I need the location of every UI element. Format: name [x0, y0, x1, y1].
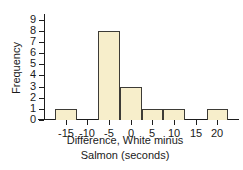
x-axis-tick [87, 120, 88, 125]
x-axis-tick [131, 120, 132, 125]
histogram-bar [55, 109, 77, 120]
y-axis-tick: 7 [39, 42, 44, 43]
x-axis-tick [174, 120, 175, 125]
plot-area: 0123456789 -15-10-505101520 [44, 14, 239, 120]
histogram-bar [163, 109, 185, 120]
x-axis-tick [109, 120, 110, 125]
y-axis-tick: 1 [39, 109, 44, 110]
y-axis-tick-label: 3 [30, 80, 36, 93]
y-axis-tick: 2 [39, 98, 44, 99]
y-axis-tick: 3 [39, 87, 44, 88]
x-axis-tick [196, 120, 197, 125]
histogram-bar [142, 109, 163, 120]
histogram-figure: Frequency 0123456789 -15-10-505101520 Di… [0, 0, 243, 170]
y-axis-tick: 0 [39, 120, 44, 121]
y-axis-tick: 8 [39, 31, 44, 32]
histogram-bar [120, 87, 142, 120]
histogram-bar [98, 31, 120, 120]
y-axis-tick: 5 [39, 64, 44, 65]
x-axis-title: Difference, White minus Salmon (seconds) [14, 133, 236, 163]
y-axis-line [44, 14, 45, 120]
x-axis-title-line-1: Difference, White minus [14, 133, 236, 148]
y-axis-tick: 4 [39, 75, 44, 76]
x-axis-tick [66, 120, 67, 125]
x-axis-title-line-2: Salmon (seconds) [14, 148, 236, 163]
x-axis-tick [217, 120, 218, 125]
y-axis-tick-label: 9 [30, 13, 36, 26]
y-axis-tick: 6 [39, 53, 44, 54]
y-axis-tick: 9 [39, 20, 44, 21]
y-axis-title: Frequency [9, 23, 23, 113]
x-axis-tick [152, 120, 153, 125]
histogram-bar [207, 109, 228, 120]
